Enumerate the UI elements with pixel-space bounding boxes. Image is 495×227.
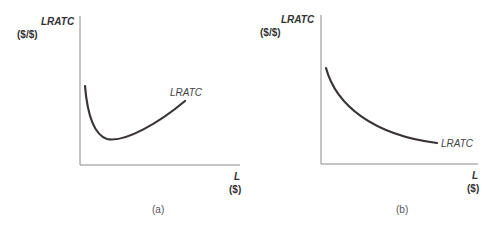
plot-b	[248, 0, 495, 227]
y-axis-unit-b: ($/$)	[260, 28, 281, 38]
x-axis-unit-b: ($)	[467, 184, 479, 194]
panel-a: LRATC ($/$) LRATC L ($) (a)	[0, 0, 248, 227]
panel-caption-a: (a)	[152, 205, 164, 215]
x-axis-unit-a: ($)	[229, 185, 241, 195]
x-axis-title-b: L	[472, 171, 478, 181]
curve-label-a: LRATC	[170, 88, 202, 98]
y-axis-title-a: LRATC	[41, 17, 74, 27]
panel-b: LRATC ($/$) LRATC L ($) (b)	[248, 0, 495, 227]
y-axis-unit-a: ($/$)	[17, 30, 38, 40]
y-axis-title-b: LRATC	[281, 15, 314, 25]
panel-caption-b: (b)	[396, 205, 408, 215]
curve-label-b: LRATC	[441, 139, 473, 149]
x-axis-title-a: L	[234, 172, 240, 182]
lratc-curve-b	[326, 68, 437, 143]
